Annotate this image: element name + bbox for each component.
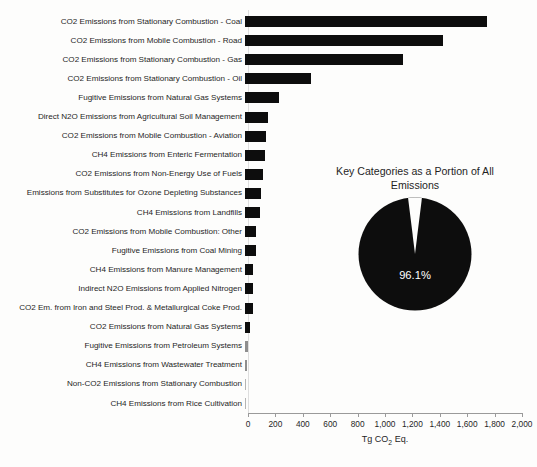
bar-row: CO2 Emissions from Mobile Combustion - R…	[0, 31, 537, 50]
x-axis-title-suffix: Eq.	[392, 434, 408, 444]
bar-category-label: Indirect N2O Emissions from Applied Nitr…	[0, 284, 245, 294]
x-axis-tick	[467, 413, 468, 417]
bar-fill	[245, 16, 487, 27]
bar-category-label: CO2 Emissions from Mobile Combustion - R…	[0, 36, 245, 46]
x-axis-tick	[275, 413, 276, 417]
pie-svg	[358, 197, 472, 311]
bar-row: CH4 Emissions from Wastewater Treatment	[0, 356, 537, 375]
bar-category-label: CO2 Emissions from Mobile Combustion - A…	[0, 131, 245, 141]
bar-category-label: Fugitive Emissions from Coal Mining	[0, 246, 245, 256]
bar-track	[245, 31, 537, 50]
x-axis-tick	[385, 413, 386, 417]
bar-fill	[245, 54, 403, 65]
bar-category-label: CO2 Emissions from Mobile Combustion: Ot…	[0, 227, 245, 237]
bar-fill	[245, 398, 246, 409]
x-axis-tick-label: 1,000	[375, 419, 396, 429]
bar-fill	[245, 360, 247, 371]
bar-row: CO2 Emissions from Stationary Combustion…	[0, 12, 537, 31]
x-axis-tick	[495, 413, 496, 417]
bar-fill	[245, 92, 279, 103]
bar-fill	[245, 188, 261, 199]
bar-category-label: CO2 Emissions from Stationary Combustion…	[0, 74, 245, 84]
bar-fill	[245, 112, 268, 123]
bar-fill	[245, 226, 256, 237]
bar-category-label: CH4 Emissions from Enteric Fermentation	[0, 150, 245, 160]
x-axis-tick	[330, 413, 331, 417]
bar-category-label: CH4 Emissions from Wastewater Treatment	[0, 360, 245, 370]
bar-track	[245, 88, 537, 107]
bar-fill	[245, 303, 253, 314]
bar-row: CH4 Emissions from Rice Cultivation	[0, 394, 537, 413]
bar-track	[245, 146, 537, 165]
bar-track	[245, 337, 537, 356]
bar-fill	[245, 207, 260, 218]
bar-track	[245, 69, 537, 88]
bar-category-label: Non-CO2 Emissions from Stationary Combus…	[0, 379, 245, 389]
bar-fill	[245, 131, 266, 142]
x-axis-tick	[248, 413, 249, 417]
bar-row: Direct N2O Emissions from Agricultural S…	[0, 108, 537, 127]
bar-category-label: CO2 Emissions from Natural Gas Systems	[0, 322, 245, 332]
x-axis-tick-label: 800	[351, 419, 365, 429]
figure-canvas: CO2 Emissions from Stationary Combustion…	[0, 0, 537, 467]
bar-category-label: CO2 Emissions from Stationary Combustion…	[0, 17, 245, 27]
bar-fill	[245, 264, 253, 275]
bar-category-label: Fugitive Emissions from Natural Gas Syst…	[0, 93, 245, 103]
x-axis-tick	[412, 413, 413, 417]
bar-fill	[245, 245, 256, 256]
x-axis-tick-label: 2,000	[512, 419, 533, 429]
bar-row: Fugitive Emissions from Petroleum System…	[0, 337, 537, 356]
bar-fill	[245, 283, 253, 294]
bar-row: CO2 Emissions from Mobile Combustion - A…	[0, 127, 537, 146]
bar-category-label: Direct N2O Emissions from Agricultural S…	[0, 112, 245, 122]
x-axis-tick-label: 0	[246, 419, 251, 429]
bar-track	[245, 127, 537, 146]
bar-category-label: Emissions from Substitutes for Ozone Dep…	[0, 188, 245, 198]
x-axis-tick-label: 1,600	[457, 419, 478, 429]
x-axis-tick-label: 1,800	[484, 419, 505, 429]
x-axis-tick-label: 1,400	[429, 419, 450, 429]
bar-track	[245, 394, 537, 413]
bar-fill	[245, 73, 311, 84]
bar-fill	[245, 322, 250, 333]
x-axis-tick	[358, 413, 359, 417]
bar-track	[245, 12, 537, 31]
x-axis-tick-label: 600	[323, 419, 337, 429]
x-axis-tick	[440, 413, 441, 417]
bar-track	[245, 356, 537, 375]
bar-track	[245, 375, 537, 394]
bar-row: CO2 Emissions from Stationary Combustion…	[0, 69, 537, 88]
bar-track	[245, 50, 537, 69]
pie-chart: Key Categories as a Portion of All Emiss…	[320, 164, 510, 336]
bar-category-label: CO2 Emissions from Non-Energy Use of Fue…	[0, 169, 245, 179]
bar-category-label: CH4 Emissions from Manure Management	[0, 265, 245, 275]
x-axis-tick-label: 400	[296, 419, 310, 429]
pie-graphic: 96.1%	[358, 197, 472, 311]
x-axis-tick-label: 1,200	[402, 419, 423, 429]
x-axis-title-prefix: Tg CO	[362, 434, 389, 444]
bar-fill	[245, 341, 248, 352]
bar-row: Fugitive Emissions from Natural Gas Syst…	[0, 88, 537, 107]
pie-value-label: 96.1%	[358, 269, 472, 281]
bar-row: CH4 Emissions from Enteric Fermentation	[0, 146, 537, 165]
bar-category-label: CO2 Emissions from Stationary Combustion…	[0, 55, 245, 65]
bar-fill	[245, 169, 263, 180]
x-axis-tick	[303, 413, 304, 417]
bar-category-label: CH4 Emissions from Landfills	[0, 208, 245, 218]
pie-chart-title: Key Categories as a Portion of All Emiss…	[320, 164, 510, 192]
bar-category-label: CH4 Emissions from Rice Cultivation	[0, 399, 245, 409]
bar-category-label: Fugitive Emissions from Petroleum System…	[0, 341, 245, 351]
x-axis-title: Tg CO2 Eq.	[248, 434, 522, 446]
bar-fill	[245, 150, 265, 161]
bar-fill	[245, 379, 246, 390]
x-axis-tick-label: 200	[268, 419, 282, 429]
x-axis-tick	[522, 413, 523, 417]
bar-category-label: CO2 Em. from Iron and Steel Prod. & Meta…	[0, 303, 245, 313]
bar-row: CO2 Emissions from Stationary Combustion…	[0, 50, 537, 69]
bar-row: Non-CO2 Emissions from Stationary Combus…	[0, 375, 537, 394]
bar-track	[245, 108, 537, 127]
bar-fill	[245, 35, 443, 46]
